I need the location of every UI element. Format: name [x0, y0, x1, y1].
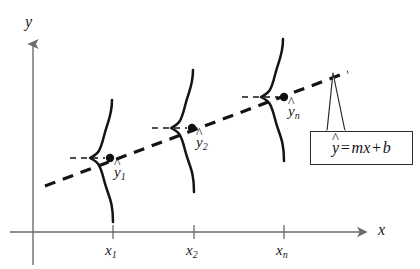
predicted-point-1 — [106, 154, 114, 162]
x-tick-label-2: x2 — [186, 243, 198, 258]
x-tick-label-n-sub: n — [283, 249, 288, 260]
equation-text: ^y=mx+b — [332, 139, 391, 157]
hat-accent-icon: ^ — [196, 127, 202, 141]
hat-accent-icon: ^ — [288, 96, 294, 110]
predicted-point-label-n: ^yn — [288, 104, 300, 119]
x-tick-label-1: x1 — [105, 243, 117, 258]
y-hat-2: ^y — [196, 135, 203, 150]
x-axis-label: x — [378, 222, 385, 238]
equation-slope: m — [352, 139, 364, 156]
predicted-point-label-2: ^y2 — [196, 135, 208, 150]
equation-callout-box: ^y=mx+b — [310, 131, 413, 165]
x-tick-label-2-sub: 2 — [193, 249, 198, 260]
equation-equals: = — [339, 139, 351, 156]
y-hat-n: ^y — [288, 104, 295, 119]
predicted-point-2 — [188, 124, 196, 132]
equation-intercept: b — [383, 139, 391, 156]
equation-y-hat: ^y — [332, 139, 339, 157]
predicted-point-label-1-sub: 1 — [121, 171, 126, 182]
hat-accent-icon: ^ — [114, 157, 120, 171]
predicted-point-label-n-sub: n — [295, 110, 300, 121]
x-tick-label-2-base: x — [186, 242, 193, 258]
x-tick-label-n: xn — [276, 243, 288, 258]
equation-plus: + — [371, 139, 383, 156]
y-axis-label: y — [25, 14, 32, 30]
predicted-point-n — [280, 93, 288, 101]
predicted-point-label-2-sub: 2 — [203, 141, 208, 152]
equation-variable: x — [363, 139, 370, 156]
x-tick-label-n-base: x — [276, 242, 283, 258]
callout-pointer — [327, 73, 345, 131]
y-hat-1: ^y — [114, 165, 121, 180]
x-tick-label-1-base: x — [105, 242, 112, 258]
regression-figure: y x x1 x2 xn ^y1 ^y2 ^yn ^y=mx+b — [0, 0, 420, 269]
x-tick-label-1-sub: 1 — [112, 249, 117, 260]
distribution-curve-3 — [261, 39, 284, 161]
hat-accent-icon: ^ — [332, 130, 339, 147]
predicted-point-label-1: ^y1 — [114, 165, 126, 180]
